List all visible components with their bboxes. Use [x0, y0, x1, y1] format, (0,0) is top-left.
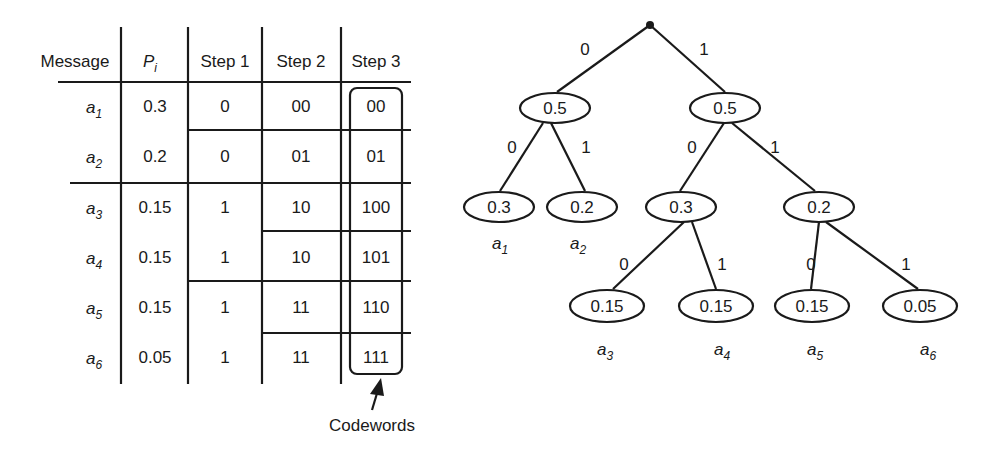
edge-label: 0 — [806, 255, 815, 274]
step1-cell: 1 — [220, 198, 229, 217]
leaf-label: a1 — [492, 234, 508, 257]
header-step-3: Step 3 — [351, 52, 400, 71]
shannon-fano-figure: Message Pi Step 1 Step 2 Step 3 a1 0.3 0… — [0, 0, 998, 454]
step3-cell: 100 — [362, 198, 390, 217]
step2-cell: 10 — [292, 198, 311, 217]
probability-cell: 0.2 — [143, 147, 167, 166]
leaf-label: a4 — [714, 340, 730, 363]
edge-label: 0 — [687, 138, 696, 157]
step2-cell: 11 — [292, 348, 310, 367]
probability-cell: 0.15 — [138, 248, 171, 267]
edge-label: 1 — [901, 255, 910, 274]
tree-node: 0.3 — [646, 192, 716, 222]
tree-node: 0.3 — [464, 192, 534, 222]
edge-label: 1 — [581, 138, 590, 157]
edge-label: 0 — [619, 255, 628, 274]
message-label: a6 — [86, 349, 102, 372]
step3-cell: 101 — [362, 248, 390, 267]
header-step-1: Step 1 — [200, 52, 249, 71]
tree-edge — [732, 123, 815, 191]
node-value: 0.3 — [487, 198, 511, 217]
step2-cell: 10 — [292, 248, 311, 267]
coding-table: Message Pi Step 1 Step 2 Step 3 a1 0.3 0… — [41, 27, 415, 435]
header-message: Message — [41, 52, 110, 71]
step1-cell: 1 — [220, 248, 229, 267]
tree-node: 0.15 — [570, 290, 644, 322]
node-value: 0.5 — [543, 99, 567, 118]
step1-cell: 1 — [220, 348, 229, 367]
tree-node: 0.2 — [784, 192, 854, 222]
node-value: 0.15 — [795, 297, 828, 316]
message-label: a1 — [86, 98, 102, 121]
leaf-label: a3 — [597, 340, 613, 363]
header-step-2: Step 2 — [276, 52, 325, 71]
edge-label: 1 — [699, 40, 708, 59]
step2-cell: 11 — [292, 298, 310, 317]
edge-label: 0 — [580, 40, 589, 59]
node-value: 0.5 — [713, 99, 737, 118]
tree-node: 0.05 — [883, 290, 957, 322]
probability-cell: 0.05 — [138, 348, 171, 367]
tree-edge — [557, 25, 650, 92]
edge-label: 0 — [507, 138, 516, 157]
codewords-label: Codewords — [329, 416, 415, 435]
node-value: 0.15 — [699, 297, 732, 316]
probability-cell: 0.15 — [138, 298, 171, 317]
table-row: a4 0.15 1 10 101 — [86, 248, 390, 272]
step2-cell: 01 — [292, 147, 311, 166]
step1-cell: 0 — [220, 97, 229, 116]
node-value: 0.15 — [590, 297, 623, 316]
tree-node: 0.5 — [520, 93, 590, 123]
message-label: a3 — [86, 199, 102, 222]
step3-cell: 01 — [367, 147, 386, 166]
tree-edge — [692, 222, 716, 289]
tree-edge — [500, 123, 543, 191]
message-label: a2 — [86, 148, 102, 171]
node-value: 0.2 — [570, 198, 594, 217]
step2-cell: 00 — [292, 97, 311, 116]
tree-node: 0.15 — [775, 290, 849, 322]
node-value: 0.2 — [807, 198, 831, 217]
table-row: a5 0.15 1 11 110 — [86, 298, 390, 322]
coding-tree: 0 1 0 1 0 1 0 1 0 1 0.5 0.5 0.3 0.2 0.3 — [464, 21, 957, 363]
node-value: 0.3 — [669, 198, 693, 217]
step1-cell: 1 — [220, 298, 229, 317]
arrow-head-icon — [370, 378, 384, 396]
table-row: a3 0.15 1 10 100 — [86, 198, 390, 222]
tree-edge — [551, 123, 585, 191]
edge-label: 1 — [717, 255, 726, 274]
tree-node: 0.5 — [690, 93, 760, 123]
leaf-label: a6 — [920, 340, 936, 363]
step3-cell: 110 — [362, 298, 389, 317]
node-value: 0.05 — [903, 297, 936, 316]
probability-cell: 0.15 — [138, 198, 171, 217]
leaf-label: a5 — [807, 340, 823, 363]
table-row: a6 0.05 1 11 111 — [86, 348, 389, 372]
root-node-icon — [646, 21, 654, 29]
tree-node: 0.15 — [679, 290, 753, 322]
header-probability: Pi — [143, 52, 157, 75]
step3-cell: 111 — [363, 348, 389, 367]
tree-edge — [680, 123, 724, 191]
tree-edge — [650, 25, 725, 92]
leaf-label: a2 — [570, 234, 586, 257]
message-label: a5 — [86, 299, 102, 322]
tree-node: 0.2 — [547, 192, 617, 222]
probability-cell: 0.3 — [143, 97, 167, 116]
edge-label: 1 — [770, 138, 779, 157]
step3-cell: 00 — [367, 97, 386, 116]
message-label: a4 — [86, 249, 102, 272]
step1-cell: 0 — [220, 147, 229, 166]
